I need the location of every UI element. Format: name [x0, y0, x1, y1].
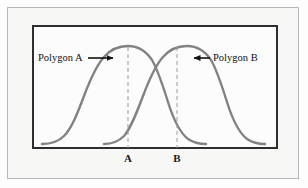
axis-tick-label-b: B [167, 153, 187, 164]
annotation-label-polygon-a: Polygon A [38, 53, 83, 64]
figure-container: Polygon A Polygon B A B [0, 0, 308, 188]
axis-tick-label-a: A [118, 153, 138, 164]
annotation-label-polygon-b: Polygon B [213, 53, 258, 64]
chart-canvas [0, 0, 308, 188]
